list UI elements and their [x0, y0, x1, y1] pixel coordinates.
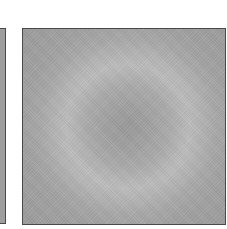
- texture-overlay: [23, 29, 225, 224]
- radial-ring-image: [22, 28, 226, 225]
- left-partial-panel: [0, 28, 6, 224]
